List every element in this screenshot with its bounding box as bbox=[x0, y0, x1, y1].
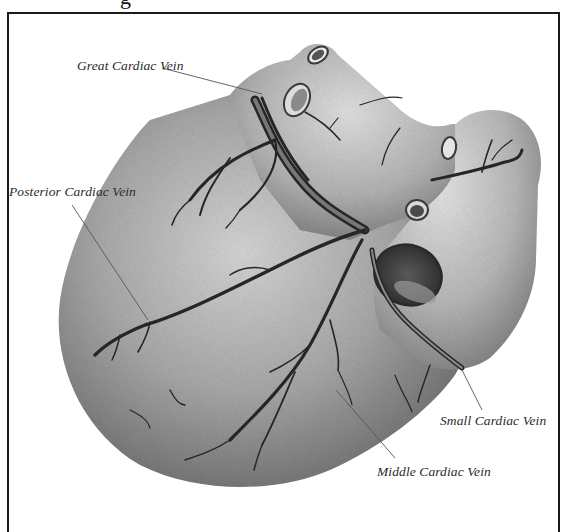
label-small-cardiac-vein: Small Cardiac Vein bbox=[440, 413, 546, 429]
label-middle-cardiac-vein: Middle Cardiac Vein bbox=[377, 464, 491, 480]
label-great-cardiac-vein: Great Cardiac Vein bbox=[77, 58, 184, 74]
leader-line-small bbox=[462, 370, 482, 410]
label-posterior-cardiac-vein: Posterior Cardiac Vein bbox=[9, 184, 136, 200]
